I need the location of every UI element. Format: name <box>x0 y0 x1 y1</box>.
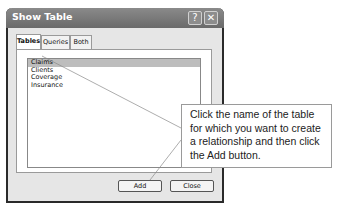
instruction-callout: Click the name of the table for which yo… <box>181 104 332 168</box>
callout-text: Click the name of the table for which yo… <box>190 108 321 161</box>
